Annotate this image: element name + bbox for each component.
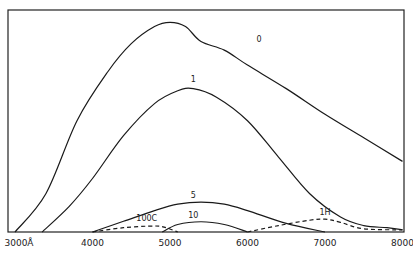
x-tick-label: 6000 <box>236 238 259 248</box>
x-axis-ticks: 3000Å40005000600070008000 <box>4 237 413 248</box>
curve-label: 5 <box>191 191 196 200</box>
curve-1h <box>248 219 403 232</box>
curve-label: 1 <box>191 75 196 84</box>
curve-label: 0 <box>257 35 262 44</box>
curves <box>15 22 403 232</box>
x-tick-label: 7000 <box>314 238 337 248</box>
curve-0 <box>15 22 403 232</box>
x-tick-label: 5000 <box>159 238 182 248</box>
x-tick-label: 8000 <box>391 238 413 248</box>
x-tick-label: 4000 <box>81 238 104 248</box>
curve-label: 10 <box>188 211 198 220</box>
curve-1 <box>42 88 402 232</box>
curve-labels: 01510100C1H <box>136 35 330 224</box>
x-tick-label: 3000Å <box>4 237 34 248</box>
spectrum-chart: 3000Å40005000600070008000 01510100C1H <box>0 0 413 256</box>
curve-label: 1H <box>319 208 330 217</box>
curve-label: 100C <box>136 214 157 223</box>
curve-10 <box>162 222 247 232</box>
